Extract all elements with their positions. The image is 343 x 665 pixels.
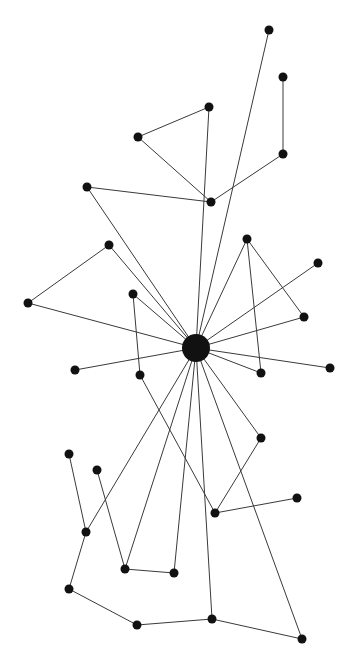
graph-node xyxy=(205,103,214,112)
graph-edge xyxy=(137,619,212,625)
graph-node xyxy=(243,235,252,244)
graph-node xyxy=(105,241,114,250)
graph-node xyxy=(71,366,80,375)
graph-node xyxy=(129,290,138,299)
graph-node xyxy=(93,466,102,475)
network-graph xyxy=(0,0,343,665)
graph-node xyxy=(133,621,142,630)
graph-edge xyxy=(196,348,302,639)
edges-layer xyxy=(28,30,330,639)
graph-node xyxy=(279,150,288,159)
graph-edge xyxy=(212,619,302,639)
graph-edge xyxy=(138,107,209,137)
graph-edge xyxy=(138,137,211,202)
graph-edge xyxy=(196,317,304,348)
graph-node xyxy=(300,313,309,322)
graph-node xyxy=(208,615,217,624)
graph-node xyxy=(65,585,74,594)
graph-edge xyxy=(28,245,109,303)
graph-node xyxy=(121,565,130,574)
graph-edge xyxy=(133,294,140,375)
graph-node xyxy=(134,133,143,142)
graph-edge xyxy=(125,569,174,573)
graph-node xyxy=(170,569,179,578)
graph-node xyxy=(279,73,288,82)
graph-edge xyxy=(196,239,247,348)
graph-edge xyxy=(211,154,283,202)
hub-node xyxy=(182,334,210,362)
graph-edge xyxy=(28,303,196,348)
graph-edge xyxy=(215,438,261,513)
graph-node xyxy=(83,183,92,192)
graph-node xyxy=(211,509,220,518)
graph-edge xyxy=(196,107,209,348)
graph-edge xyxy=(97,470,125,569)
graph-node xyxy=(82,528,91,537)
graph-node xyxy=(24,299,33,308)
graph-node xyxy=(65,450,74,459)
graph-node xyxy=(257,434,266,443)
graph-edge xyxy=(69,532,86,589)
graph-node xyxy=(207,198,216,207)
graph-node xyxy=(265,26,274,35)
graph-edge xyxy=(87,187,196,348)
graph-edge xyxy=(140,375,215,513)
graph-edge xyxy=(247,239,261,373)
graph-edge xyxy=(109,245,196,348)
graph-edge xyxy=(69,454,86,532)
graph-edge xyxy=(196,348,330,368)
graph-edge xyxy=(69,589,137,625)
graph-edge xyxy=(215,498,297,513)
graph-node xyxy=(298,635,307,644)
graph-node xyxy=(136,371,145,380)
graph-edge xyxy=(75,348,196,370)
graph-edge xyxy=(196,348,261,438)
graph-node xyxy=(326,364,335,373)
graph-edge xyxy=(196,30,269,348)
nodes-layer xyxy=(24,26,335,644)
graph-node xyxy=(314,259,323,268)
graph-node xyxy=(257,369,266,378)
graph-edge xyxy=(87,187,211,202)
graph-node xyxy=(293,494,302,503)
graph-edge xyxy=(247,239,304,317)
